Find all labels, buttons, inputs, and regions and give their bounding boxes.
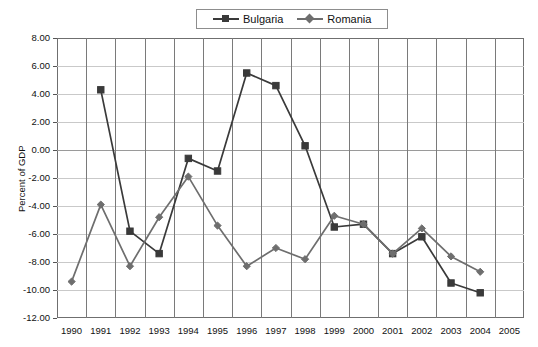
data-point-bulgaria-1999 [331,224,337,230]
data-point-bulgaria-2003 [448,280,454,286]
data-point-bulgaria-1996 [244,70,250,76]
line-chart: Bulgaria Romania Percent of GDP 8.006.00… [0,0,538,347]
series-line-bulgaria [101,73,480,293]
data-point-bulgaria-1992 [127,228,133,234]
data-point-bulgaria-1997 [273,82,279,88]
data-point-bulgaria-1998 [302,143,308,149]
data-point-bulgaria-1993 [156,250,162,256]
data-point-romania-1991 [97,201,104,208]
data-point-bulgaria-1995 [214,168,220,174]
series-layer [0,0,538,347]
data-point-bulgaria-1991 [98,87,104,93]
data-point-bulgaria-1994 [185,155,191,161]
data-point-romania-1992 [126,263,133,270]
data-point-romania-2004 [477,268,484,275]
data-point-romania-1990 [68,278,75,285]
data-point-bulgaria-2002 [419,234,425,240]
data-point-bulgaria-2004 [477,290,483,296]
